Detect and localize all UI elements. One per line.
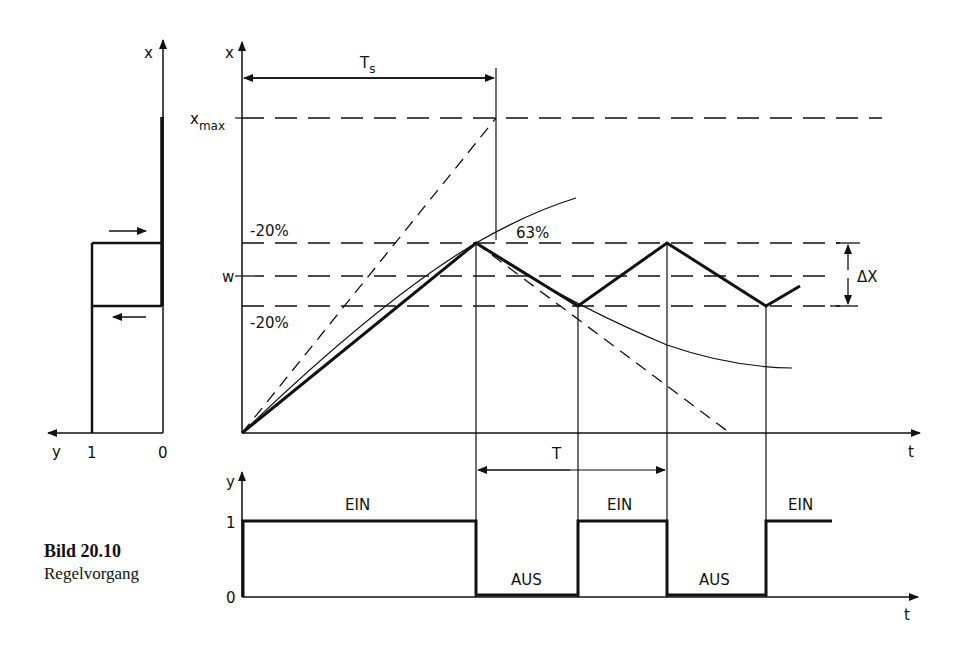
switch-tick-1: 1 [226, 514, 236, 532]
controlled-variable-curve [242, 243, 800, 433]
setpoint-label: w [222, 268, 234, 286]
period-label: T [551, 445, 562, 463]
switch-y-axis-label: y [226, 473, 235, 491]
63-percent-label: 63% [516, 224, 549, 242]
lower-level-label: -20% [250, 314, 289, 332]
ts-label: Ts [359, 54, 375, 76]
xmax-label: xmax [190, 110, 225, 133]
state-label-2: AUS [511, 571, 542, 589]
process-t-axis-label: t [908, 443, 914, 461]
hysteresis-y-axis-label: y [52, 443, 61, 461]
hysteresis-plot: x y 1 0 [48, 40, 168, 462]
upper-level-label: -20% [250, 222, 289, 240]
hysteresis-x-axis-label: x [144, 44, 153, 62]
figure-caption: Bild 20.10 Regelvorgang [44, 541, 139, 584]
switch-tick-0: 0 [226, 589, 236, 607]
switch-t-axis-label: t [904, 606, 910, 624]
figure-title: Regelvorgang [44, 564, 139, 584]
figure-number: Bild 20.10 [44, 541, 139, 562]
delta-x-label: ΔX [857, 268, 878, 286]
state-label-1: EIN [345, 496, 370, 514]
switch-plot: y t 1 0 EIN AUS EIN AUS EIN [226, 472, 918, 624]
control-process-diagram: x y 1 0 x t Ts xmax - [0, 0, 959, 657]
state-label-5: EIN [788, 496, 813, 514]
decay-tangent [476, 243, 730, 433]
hysteresis-tick-0: 0 [158, 444, 168, 462]
hysteresis-tick-1: 1 [87, 444, 97, 462]
state-label-4: AUS [699, 571, 730, 589]
process-y-axis-label: x [225, 44, 234, 62]
state-label-3: EIN [607, 496, 632, 514]
